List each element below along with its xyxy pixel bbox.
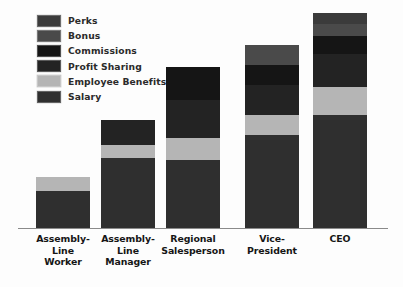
bar-segment[interactable] — [166, 138, 220, 160]
bar-segment[interactable] — [36, 177, 90, 191]
bar-segment[interactable] — [313, 87, 367, 115]
category-label-line: Salesperson — [158, 245, 228, 257]
legend-swatch-icon — [37, 60, 61, 72]
legend-item[interactable]: Profit Sharing — [37, 59, 166, 74]
bar-segment[interactable] — [166, 67, 220, 100]
legend-swatch-icon — [37, 75, 61, 87]
bar-segment[interactable] — [101, 120, 155, 145]
bar-segment[interactable] — [101, 158, 155, 228]
category-label-line: Assembly- — [28, 233, 98, 245]
legend-item[interactable]: Bonus — [37, 28, 166, 43]
legend-swatch-icon — [37, 15, 61, 27]
legend-item-label: Employee Benefits — [68, 77, 166, 86]
bar-segment[interactable] — [245, 65, 299, 85]
bar-segment[interactable] — [101, 145, 155, 158]
bar-segment[interactable] — [166, 160, 220, 228]
bar-segment[interactable] — [313, 24, 367, 36]
bar-segment[interactable] — [245, 45, 299, 65]
bar-segment[interactable] — [313, 36, 367, 54]
bar-segment[interactable] — [313, 54, 367, 87]
category-label-line: Worker — [28, 256, 98, 268]
bar-segment[interactable] — [166, 100, 220, 138]
legend-item[interactable]: Commissions — [37, 43, 166, 58]
category-label: Assembly-LineWorker — [28, 233, 98, 268]
legend-item-label: Salary — [68, 92, 101, 101]
stacked-bar[interactable] — [166, 67, 220, 228]
bar-segment[interactable] — [313, 115, 367, 228]
bar-segment[interactable] — [245, 85, 299, 115]
legend-item[interactable]: Salary — [37, 89, 166, 104]
bar-segment[interactable] — [245, 135, 299, 228]
category-label-line: Line — [93, 245, 163, 257]
legend-item[interactable]: Employee Benefits — [37, 74, 166, 89]
chart-page: PerksBonusCommissionsProfit SharingEmplo… — [0, 0, 403, 287]
bar-segment[interactable] — [245, 115, 299, 135]
category-label-line: Line — [28, 245, 98, 257]
category-label: RegionalSalesperson — [158, 233, 228, 256]
bar-segment[interactable] — [36, 191, 90, 228]
category-label: CEO — [305, 233, 375, 245]
category-label-line: Regional — [158, 233, 228, 245]
stacked-bar[interactable] — [36, 177, 90, 228]
category-label-line: Manager — [93, 256, 163, 268]
legend-item[interactable]: Perks — [37, 13, 166, 28]
category-label-line: Assembly- — [93, 233, 163, 245]
legend-item-label: Perks — [68, 16, 98, 25]
category-label: Assembly-LineManager — [93, 233, 163, 268]
legend-swatch-icon — [37, 45, 61, 57]
category-label-line: President — [237, 245, 307, 257]
category-label-line: CEO — [305, 233, 375, 245]
stacked-bar[interactable] — [101, 120, 155, 228]
stacked-bar[interactable] — [313, 13, 367, 228]
legend-item-label: Commissions — [68, 46, 137, 55]
stacked-bar[interactable] — [245, 45, 299, 228]
chart-legend: PerksBonusCommissionsProfit SharingEmplo… — [37, 13, 166, 104]
category-label: Vice-President — [237, 233, 307, 256]
legend-swatch-icon — [37, 30, 61, 42]
legend-swatch-icon — [37, 91, 61, 103]
legend-item-label: Profit Sharing — [68, 62, 142, 71]
bar-segment[interactable] — [313, 13, 367, 24]
category-label-line: Vice- — [237, 233, 307, 245]
legend-item-label: Bonus — [68, 31, 100, 40]
